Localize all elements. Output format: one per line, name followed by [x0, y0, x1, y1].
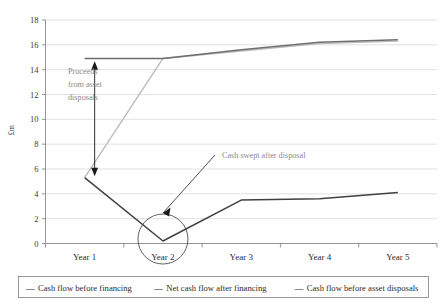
y-tick-label: 0: [34, 239, 38, 249]
legend-label-2: Cash flow before asset disposals: [307, 283, 419, 293]
proceeds-annotation-line-3: disposals: [68, 93, 98, 102]
y-axis-title: £m: [7, 124, 16, 135]
x-category-label: Year 1: [73, 252, 96, 262]
x-category-label: Year 3: [230, 252, 254, 262]
legend-label-1: Net cash flow after financing: [166, 283, 267, 293]
legend: —Cash flow before financing—Net cash flo…: [25, 283, 419, 293]
x-category-label: Year 4: [308, 252, 332, 262]
cash-swept-annotation-label: Cash swept after disposal: [222, 151, 306, 160]
y-tick-label: 12: [30, 90, 39, 100]
x-category-label: Year 2: [151, 252, 174, 262]
proceeds-annotation-line-1: Proceeds: [68, 67, 98, 76]
legend-swatch-1: —: [153, 283, 163, 293]
line-chart: 024681012141618 Year 1Year 2Year 3Year 4…: [0, 0, 447, 307]
y-tick-label: 2: [34, 214, 38, 224]
legend-swatch-0: —: [25, 283, 35, 293]
x-category-label: Year 5: [386, 252, 410, 262]
y-tick-label: 8: [34, 139, 38, 149]
proceeds-annotation-line-2: from asset: [68, 80, 103, 89]
legend-swatch-2: —: [294, 283, 304, 293]
legend-label-0: Cash flow before financing: [38, 283, 132, 293]
y-tick-label: 14: [30, 65, 39, 75]
chart-canvas: 024681012141618 Year 1Year 2Year 3Year 4…: [0, 0, 447, 307]
y-tick-label: 10: [30, 114, 39, 124]
y-tick-label: 18: [30, 15, 39, 25]
y-tick-label: 16: [30, 40, 39, 50]
y-tick-label: 6: [34, 164, 38, 174]
